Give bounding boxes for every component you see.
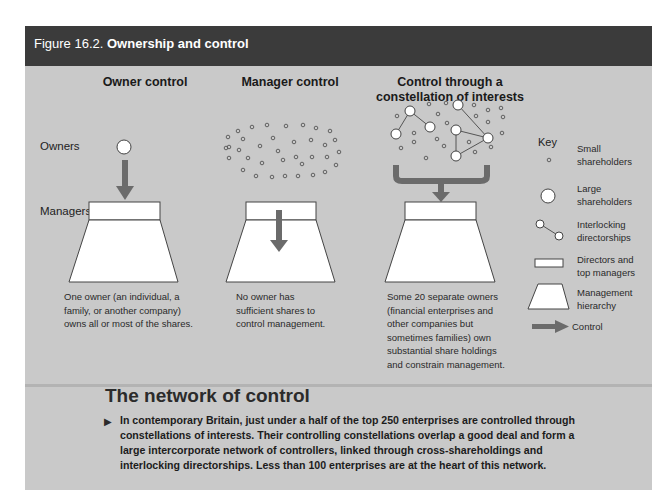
large-shareholder-icon: [117, 140, 131, 154]
section-body: In contemporary Britain, just under a ha…: [120, 413, 580, 473]
small-circle-icon: [547, 158, 551, 162]
management-hierarchy: [69, 220, 178, 282]
key-item-small-shareholders: Small shareholders: [577, 142, 632, 168]
directors-box: [405, 202, 476, 220]
rectangle-icon: [535, 259, 563, 267]
key-item-interlocking-directorships: Interlocking directorships: [577, 218, 631, 244]
key-item-large-shareholders: Large shareholders: [577, 182, 632, 208]
large-circle-icon: [541, 189, 555, 203]
key-label-line1: Small: [577, 142, 632, 155]
key-label-line2: shareholders: [577, 195, 632, 208]
key-label-line1: Directors and: [577, 253, 635, 266]
key-title: Key: [538, 136, 557, 148]
manager-control-hierarchy: [226, 202, 335, 282]
linked-circles-icon: [536, 220, 563, 240]
trapezoid-icon: [528, 284, 569, 309]
key-item-control: Control: [572, 320, 603, 333]
constellation-caption: Some 20 separate owners (financial enter…: [387, 290, 509, 371]
control-arrow-icon: [116, 186, 134, 200]
section-title: The network of control: [105, 385, 310, 407]
arrow-right-icon: [555, 320, 569, 333]
key-label-line1: Interlocking: [577, 218, 631, 231]
owner-control-diagram: [69, 140, 178, 282]
control-bracket: [396, 165, 487, 181]
management-hierarchy: [385, 220, 495, 282]
key-label-line2: hierarchy: [577, 299, 632, 312]
key-label-line1: Management: [577, 286, 632, 299]
control-arrow-icon: [432, 192, 450, 202]
key-item-management-hierarchy: Management hierarchy: [577, 286, 632, 312]
owner-control-caption: One owner (an individual, a family, or a…: [64, 290, 199, 331]
directors-box: [89, 202, 160, 220]
key-label-line2: directorships: [577, 231, 631, 244]
key-label-line2: shareholders: [577, 155, 632, 168]
manager-control-diagram: [224, 123, 341, 179]
key-icons: [528, 158, 569, 333]
triangle-right-icon: ▶: [104, 416, 112, 427]
manager-control-caption: No owner has sufficient shares to contro…: [236, 290, 331, 331]
key-label-line2: top managers: [577, 266, 635, 279]
key-label-line1: Large: [577, 182, 632, 195]
key-item-directors-top-managers: Directors and top managers: [577, 253, 635, 279]
large-shareholders: [391, 100, 493, 161]
constellation-diagram: [385, 100, 505, 282]
key-label-line1: Control: [572, 320, 603, 333]
